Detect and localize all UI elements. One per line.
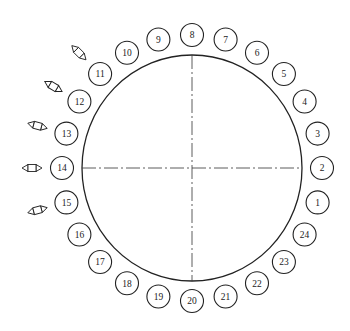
position-label: 21: [221, 292, 231, 302]
marker-icon: [22, 165, 42, 172]
position-16: 16: [68, 223, 91, 246]
position-label: 4: [302, 97, 307, 107]
position-label: 19: [154, 292, 164, 302]
position-label: 11: [96, 69, 105, 79]
position-label: 16: [75, 230, 85, 240]
position-24: 24: [293, 223, 316, 246]
position-2: 2: [311, 157, 334, 180]
position-23: 23: [272, 251, 295, 274]
position-19: 19: [147, 285, 170, 308]
position-label: 3: [315, 129, 320, 139]
position-8: 8: [181, 24, 204, 47]
position-label: 12: [75, 97, 85, 107]
marker-icon: [27, 204, 48, 216]
position-4: 4: [293, 90, 316, 113]
position-3: 3: [306, 122, 329, 145]
position-14: 14: [51, 157, 74, 180]
position-15: 15: [55, 191, 78, 214]
position-label: 14: [57, 163, 67, 173]
position-label: 8: [190, 30, 195, 40]
position-12: 12: [68, 90, 91, 113]
position-label: 10: [122, 48, 132, 58]
position-label: 18: [122, 279, 132, 289]
position-label: 22: [252, 279, 262, 289]
position-label: 24: [300, 230, 310, 240]
position-label: 1: [315, 198, 320, 208]
position-6: 6: [246, 41, 269, 64]
position-9: 9: [147, 28, 170, 51]
position-10: 10: [116, 41, 139, 64]
position-17: 17: [89, 251, 112, 274]
position-label: 15: [62, 198, 72, 208]
position-21: 21: [214, 285, 237, 308]
marker-icon: [69, 43, 88, 62]
position-label: 23: [279, 257, 289, 267]
position-18: 18: [116, 272, 139, 295]
position-label: 17: [95, 257, 105, 267]
position-label: 20: [187, 296, 197, 306]
position-13: 13: [55, 122, 78, 145]
position-11: 11: [89, 63, 112, 86]
position-label: 6: [255, 48, 260, 58]
position-label: 9: [156, 35, 161, 45]
marker-icon: [27, 120, 48, 132]
position-22: 22: [246, 272, 269, 295]
position-label: 7: [223, 35, 228, 45]
position-5: 5: [272, 63, 295, 86]
marker-icon: [43, 78, 64, 94]
position-20: 20: [181, 290, 204, 313]
position-label: 5: [282, 69, 287, 79]
position-1: 1: [306, 191, 329, 214]
position-7: 7: [214, 28, 237, 51]
circular-position-diagram: 123456789101112131415161718192021222324: [0, 0, 350, 331]
position-label: 13: [62, 129, 72, 139]
position-label: 2: [320, 163, 325, 173]
